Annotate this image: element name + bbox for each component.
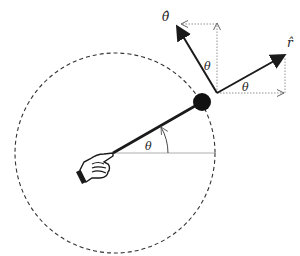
rod — [113, 102, 202, 153]
theta-label-right: θ — [242, 81, 249, 94]
theta-label-center: θ — [145, 140, 152, 153]
polar-vectors-diagram: θ θ̂ r̂ θ θ — [0, 0, 300, 256]
r-hat-vector — [217, 56, 283, 93]
theta-hat-label: θ̂ — [162, 10, 170, 24]
angle-arc-center — [161, 127, 168, 153]
r-hat-label: r̂ — [287, 36, 294, 50]
theta-hat-vector — [178, 28, 217, 93]
mass-ball — [193, 93, 211, 111]
theta-label-upper: θ — [204, 60, 211, 73]
pointing-hand-icon — [76, 153, 113, 184]
